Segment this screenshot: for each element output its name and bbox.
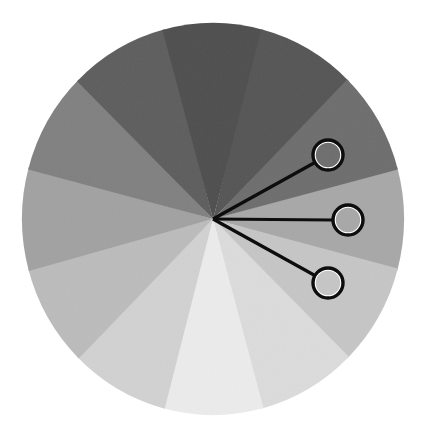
callout-top-marker[interactable] xyxy=(310,137,346,173)
callout-middle-leader-line xyxy=(213,219,333,220)
callout-middle-marker-hitarea[interactable] xyxy=(330,202,366,238)
figure-root xyxy=(0,0,423,440)
callout-top-marker-hitarea[interactable] xyxy=(310,137,346,173)
callout-bottom-marker[interactable] xyxy=(310,265,346,301)
sector-wheel-chart xyxy=(0,0,423,440)
callout-middle-marker[interactable] xyxy=(330,202,366,238)
callout-bottom-marker-hitarea[interactable] xyxy=(310,265,346,301)
